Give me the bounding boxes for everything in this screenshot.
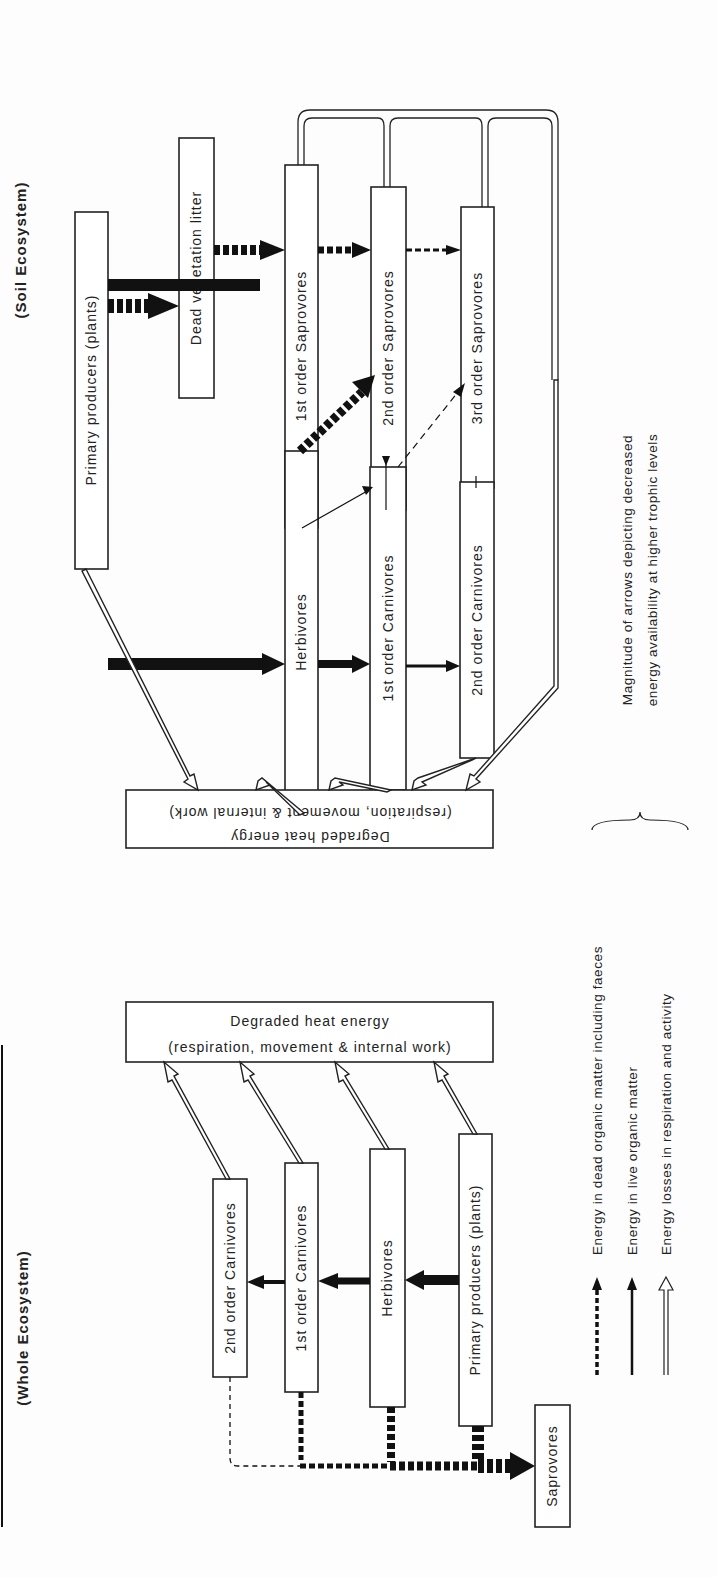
svg-text:Herbivores: Herbivores: [379, 1239, 395, 1317]
svg-text:2nd order Carnivores: 2nd order Carnivores: [222, 1202, 238, 1354]
svg-text:(respiration, movement & inter: (respiration, movement & internal work): [168, 1039, 451, 1055]
svg-text:Primary producers (plants): Primary producers (plants): [467, 1185, 483, 1376]
svg-text:Dead vegetation litter: Dead vegetation litter: [188, 191, 204, 345]
svg-text:(respiration, movement & inter: (respiration, movement & internal work): [168, 805, 451, 821]
whole-carn2-box: 2nd order Carnivores: [213, 1179, 247, 1377]
svg-text:1st order Carnivores: 1st order Carnivores: [293, 1205, 309, 1352]
svg-text:Degraded heat energy: Degraded heat energy: [230, 829, 389, 845]
svg-text:1st order Carnivores: 1st order Carnivores: [380, 555, 396, 702]
svg-text:Energy in dead organic matter: Energy in dead organic matter including …: [590, 946, 605, 1255]
legend: Energy in dead organic matter including …: [590, 946, 674, 1375]
legend-live-arrow-icon: [627, 1277, 637, 1375]
whole-herbivores-box: Herbivores: [370, 1149, 405, 1407]
whole-carn1-box: 1st order Carnivores: [285, 1163, 318, 1392]
svg-text:1st order Saprovores: 1st order Saprovores: [293, 271, 309, 422]
soil-heat-box: (respiration, movement & internal work) …: [126, 790, 493, 848]
svg-text:energy availability at higher: energy availability at higher trophic le…: [645, 434, 660, 707]
svg-text:2nd order Saprovores: 2nd order Saprovores: [380, 270, 396, 425]
soil-sap2-box: 2nd order Saprovores: [371, 187, 406, 510]
soil-dead-litter-box: Dead vegetation litter: [179, 138, 214, 398]
soil-carn2-box: 2nd order Carnivores: [460, 482, 494, 758]
whole-loss-arrows: [164, 1062, 477, 1179]
svg-text:Saprovores: Saprovores: [544, 1425, 560, 1507]
soil-carn1-box: 1st order Carnivores: [370, 467, 406, 790]
legend-loss-arrow-icon: [659, 1277, 673, 1375]
svg-text:Energy losses in respiration a: Energy losses in respiration and activit…: [659, 993, 674, 1255]
svg-text:Herbivores: Herbivores: [293, 593, 309, 671]
soil-saprovore-loss-loops: [298, 110, 558, 380]
soil-sap3-box: 3rd order Saprovores: [461, 207, 494, 488]
svg-text:3rd order Saprovores: 3rd order Saprovores: [469, 272, 485, 424]
whole-live-arrows: [247, 1270, 459, 1290]
whole-saprovores-box: Saprovores: [535, 1405, 570, 1527]
svg-text:Energy in live organic matter: Energy in live organic matter: [625, 1067, 640, 1255]
soil-title: (Soil Ecosystem): [12, 182, 29, 319]
soil-herbivores-box: Herbivores: [285, 451, 318, 813]
soil-primary-producers-box: Primary producers (plants): [75, 212, 108, 569]
svg-text:2nd order Carnivores: 2nd order Carnivores: [469, 544, 485, 696]
whole-heat-box: Degraded heat energy (respiration, movem…: [126, 1002, 493, 1062]
svg-text:Primary producers (plants): Primary producers (plants): [83, 295, 99, 486]
whole-title: (Whole Ecosystem): [14, 1250, 31, 1405]
legend-dead-arrow-icon: [592, 1277, 602, 1375]
svg-text:Degraded heat energy: Degraded heat energy: [230, 1013, 389, 1029]
magnitude-note: Magnitude of arrows depicting decreased …: [592, 434, 688, 830]
svg-text:Magnitude of arrows depicting: Magnitude of arrows depicting decreased: [620, 435, 635, 705]
whole-primary-producers-box: Primary producers (plants): [459, 1134, 492, 1426]
energy-flow-diagram: (Soil Ecosystem) Primary producers (plan…: [0, 0, 717, 1577]
